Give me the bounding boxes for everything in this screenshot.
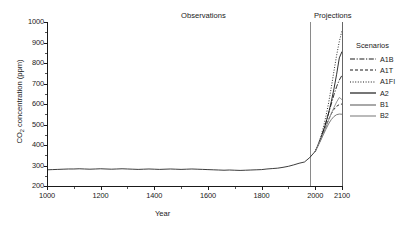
y-tick-minor [45,73,47,74]
y-tick-minor [45,94,47,95]
x-tick-label: 1200 [81,192,121,200]
y-tick [44,125,47,126]
y-axis-title: CO2 concentration (ppm) [15,27,24,177]
x-tick [47,187,48,190]
y-tick-minor [45,176,47,177]
x-tick-minor [127,187,128,189]
y-tick [44,104,47,105]
legend-label: A2 [380,89,389,98]
x-tick [154,187,155,190]
annotation-projections: Projections [314,11,352,20]
x-tick-minor [74,187,75,189]
plot-canvas [47,22,342,186]
y-tick [44,63,47,64]
legend-label: B2 [380,111,389,120]
x-tick-minor [235,187,236,189]
series-line-a2 [315,52,342,152]
y-tick [44,22,47,23]
x-tick [208,187,209,190]
legend-title: Scenarios [356,41,408,50]
y-tick-minor [45,32,47,33]
y-tick-minor [45,53,47,54]
y-axis-title-subscript: 2 [18,129,24,132]
legend-item-a1fi[interactable]: A1FI [350,77,408,87]
plot-right-border [342,22,343,186]
legend-swatch [350,78,376,86]
legend-swatch [350,101,376,109]
series-line-a1fi [315,31,342,152]
y-tick [44,43,47,44]
x-tick-minor [288,187,289,189]
legend-item-b1[interactable]: B1 [350,100,408,110]
legend-swatch [350,66,376,74]
legend-items: A1BA1TA1FIA2B1B2 [350,54,408,121]
y-tick [44,84,47,85]
y-tick [44,166,47,167]
legend-swatch [350,112,376,120]
x-tick-label: 1000 [27,192,67,200]
y-tick-label: 200 [0,182,44,189]
x-tick [262,187,263,190]
x-tick-label: 1400 [134,192,174,200]
legend-item-b2[interactable]: B2 [350,111,408,121]
y-axis-title-suffix: concentration (ppm) [15,59,24,129]
y-tick-minor [45,114,47,115]
y-tick [44,145,47,146]
legend-item-a1t[interactable]: A1T [350,65,408,75]
annotation-observations: Observations [181,11,226,20]
chart-container: 2003004005006007008009001000 Year CO2 co… [0,0,408,230]
x-tick-label: 1600 [188,192,228,200]
legend-item-a2[interactable]: A2 [350,88,408,98]
legend-label: B1 [380,100,389,109]
y-tick-minor [45,155,47,156]
legend-label: A1T [380,66,393,75]
x-tick-minor [181,187,182,189]
legend: Scenarios A1BA1TA1FIA2B1B2 [350,41,408,122]
x-axis-line [47,186,343,187]
legend-label: A1B [380,55,394,64]
series-line-observations [47,151,315,170]
legend-label: A1FI [380,77,395,86]
legend-item-a1b[interactable]: A1B [350,54,408,64]
x-tick-label: 2100 [322,192,362,200]
x-tick [315,187,316,190]
y-axis-title-prefix: CO [15,132,24,143]
y-tick-label: 1000 [0,18,44,25]
x-axis-title: Year [155,209,170,218]
legend-swatch [350,89,376,97]
x-tick-label: 1800 [242,192,282,200]
x-tick [101,187,102,190]
y-tick-minor [45,135,47,136]
x-tick [342,187,343,190]
legend-swatch [350,55,376,63]
